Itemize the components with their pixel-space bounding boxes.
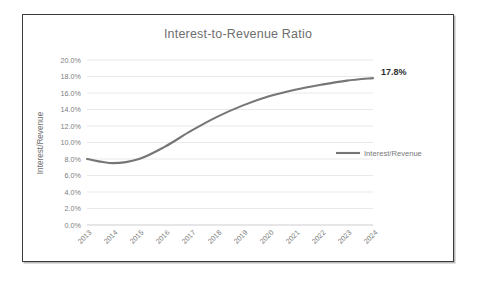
- x-axis-tick-label: 2018: [206, 228, 224, 246]
- legend-label-interest-revenue: Interest/Revenue: [364, 149, 422, 158]
- y-axis-tick-label: 6.0%: [65, 171, 82, 180]
- x-axis-tick-label: 2016: [154, 228, 172, 246]
- y-axis-tick-label: 16.0%: [61, 89, 82, 98]
- y-axis-tick-label: 4.0%: [65, 188, 82, 197]
- x-axis-tick-label: 2014: [102, 228, 120, 246]
- gridlines-group: [87, 60, 373, 225]
- chart-plot-area: 0.0%2.0%4.0%6.0%8.0%10.0%12.0%14.0%16.0%…: [23, 15, 455, 263]
- x-axis-tick-label: 2023: [336, 228, 354, 246]
- x-axis-tick-label: 2015: [128, 228, 146, 246]
- x-axis-tick-label: 2020: [258, 228, 276, 246]
- series-line-interest-revenue: [87, 78, 373, 163]
- y-axis-tick-label: 14.0%: [61, 105, 82, 114]
- x-axis-tick-labels: 2013201420152016201720182019202020212022…: [76, 228, 380, 246]
- y-axis-tick-labels: 0.0%2.0%4.0%6.0%8.0%10.0%12.0%14.0%16.0%…: [61, 56, 82, 230]
- x-axis-tick-label: 2024: [362, 228, 380, 246]
- x-axis-tick-label: 2019: [232, 228, 250, 246]
- chart-frame: Interest-to-Revenue Ratio 0.0%2.0%4.0%6.…: [22, 14, 454, 262]
- x-axis-tick-label: 2021: [284, 228, 302, 246]
- y-axis-tick-label: 20.0%: [61, 56, 82, 65]
- y-axis-tick-label: 2.0%: [65, 204, 82, 213]
- y-axis-tick-label: 0.0%: [65, 221, 82, 230]
- line-chart-svg: 0.0%2.0%4.0%6.0%8.0%10.0%12.0%14.0%16.0%…: [23, 15, 455, 263]
- y-axis-tick-label: 8.0%: [65, 155, 82, 164]
- y-axis-title: Interest/Revenue: [36, 111, 45, 174]
- x-axis-tick-label: 2022: [310, 228, 328, 246]
- chart-legend: Interest/Revenue: [336, 149, 422, 158]
- x-axis-tick-label: 2013: [76, 228, 94, 246]
- y-axis-tick-label: 12.0%: [61, 122, 82, 131]
- y-axis-tick-label: 10.0%: [61, 138, 82, 147]
- y-axis-tick-label: 18.0%: [61, 72, 82, 81]
- x-axis-tick-label: 2017: [180, 228, 198, 246]
- data-label-final-value: 17.8%: [381, 67, 407, 77]
